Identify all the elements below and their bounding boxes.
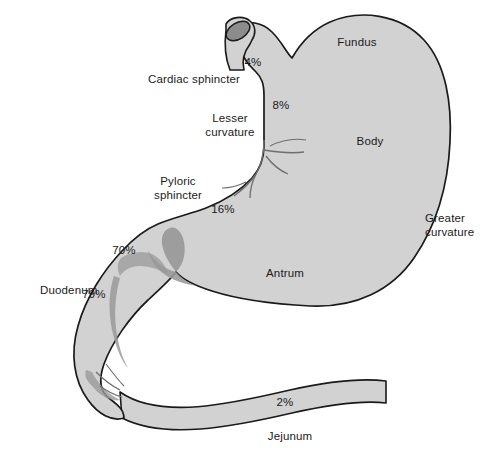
jejunum-shape bbox=[120, 380, 386, 430]
label-fundus: Fundus bbox=[337, 36, 376, 48]
stomach-shape bbox=[74, 15, 450, 419]
label-lesser-curvature-line1: Lesser bbox=[212, 112, 247, 124]
percentage-duodenum: 79% bbox=[82, 288, 105, 300]
stomach-diagram: Fundus Body Antrum Duodenum Jejunum Card… bbox=[0, 0, 481, 450]
percentage-pylorus: 70% bbox=[112, 244, 135, 256]
label-pyloric-sphincter-line2: sphincter bbox=[154, 189, 202, 201]
label-lesser-curvature-line2: curvature bbox=[205, 126, 254, 138]
label-greater-curvature-line2: curvature bbox=[425, 226, 474, 238]
label-cardiac-sphincter: Cardiac sphincter bbox=[148, 73, 240, 85]
label-body: Body bbox=[357, 135, 384, 147]
label-antrum: Antrum bbox=[266, 267, 304, 279]
percentage-jejunum: 2% bbox=[277, 396, 294, 408]
label-greater-curvature-line1: Greater bbox=[425, 212, 465, 224]
stomach-illustration: Fundus Body Antrum Duodenum Jejunum Card… bbox=[0, 0, 481, 450]
organ-shapes bbox=[74, 15, 450, 430]
percentage-cardia: 4% bbox=[245, 56, 262, 68]
label-pyloric-sphincter-line1: Pyloric bbox=[160, 175, 196, 187]
percentage-upper-body: 8% bbox=[273, 99, 290, 111]
label-jejunum: Jejunum bbox=[268, 430, 313, 442]
percentage-antrum: 16% bbox=[211, 203, 234, 215]
